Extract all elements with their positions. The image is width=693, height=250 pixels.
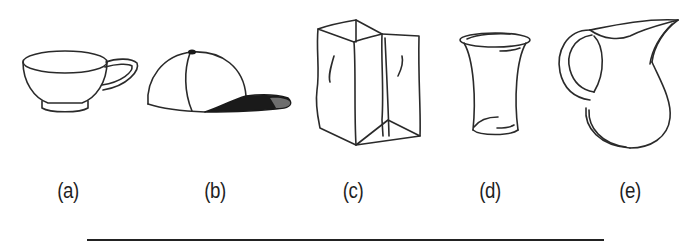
label-b: (b) bbox=[190, 178, 241, 204]
paper-bag-icon bbox=[316, 20, 420, 145]
label-c: (c) bbox=[328, 178, 379, 204]
horizontal-rule bbox=[87, 239, 604, 241]
object-drawings bbox=[0, 0, 693, 170]
teacup-icon bbox=[23, 51, 137, 112]
label-e: (e) bbox=[605, 178, 656, 204]
label-a: (a) bbox=[43, 178, 94, 204]
object-figure: (a) (b) (c) (d) (e) bbox=[0, 0, 693, 250]
baseball-cap-icon bbox=[148, 50, 291, 113]
pitcher-icon bbox=[559, 20, 678, 148]
drinking-glass-icon bbox=[460, 33, 530, 135]
label-d: (d) bbox=[465, 178, 516, 204]
